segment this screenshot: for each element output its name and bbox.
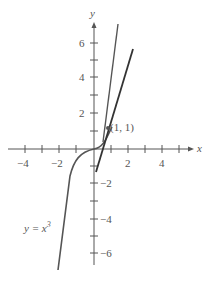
- cubic-tangent-chart: −4 −2 2 4 6 4 2 −2 −4 −6 y x (1, 1) y = …: [0, 0, 210, 283]
- y-axis-arrow-icon: [92, 22, 97, 28]
- x-axis-label: x: [196, 142, 202, 154]
- x-tick-label: 2: [125, 157, 131, 169]
- point-label: (1, 1): [110, 121, 134, 134]
- x-tick-label: −4: [17, 157, 29, 169]
- curve-label-base: y = x: [23, 222, 47, 234]
- y-tick-label: −6: [100, 247, 112, 259]
- x-tick-label: 4: [159, 157, 165, 169]
- curve-label-exponent: 3: [46, 220, 51, 229]
- x-axis-arrow-icon: [188, 147, 194, 152]
- y-tick-label: −4: [100, 213, 112, 225]
- curve-label: y = x3: [23, 220, 51, 234]
- y-tick-label: 4: [79, 71, 85, 83]
- y-tick-label: 2: [79, 107, 85, 119]
- y-tick-label: 6: [79, 37, 85, 49]
- tangent-line: [96, 49, 133, 172]
- y-axis-label: y: [89, 7, 95, 19]
- x-tick-label: −2: [51, 157, 63, 169]
- y-tick-label: −2: [100, 177, 112, 189]
- y-axis: [90, 22, 98, 265]
